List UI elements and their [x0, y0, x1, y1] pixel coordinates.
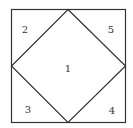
region-label-5: 5 — [108, 24, 114, 35]
diagram-canvas: 1 2 5 3 4 — [0, 0, 133, 128]
region-label-3: 3 — [25, 104, 31, 115]
region-label-1: 1 — [65, 63, 71, 74]
region-label-4: 4 — [109, 105, 115, 116]
region-label-2: 2 — [22, 24, 28, 35]
